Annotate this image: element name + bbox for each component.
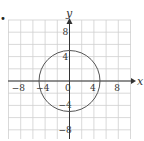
x-axis-arrow-icon (131, 78, 136, 84)
y-tick-label: −8 (59, 125, 73, 135)
x-tick-label: −8 (12, 83, 26, 93)
x-tick-label: 8 (114, 83, 120, 93)
y-tick-label: 8 (63, 27, 69, 37)
coordinate-plane: x y −8−404884−4−8 (0, 0, 144, 141)
y-axis-label: y (65, 7, 73, 20)
y-tick-label: 4 (63, 52, 69, 62)
x-tick-label: 0 (65, 83, 71, 93)
x-tick-label: 4 (90, 83, 96, 93)
y-tick-label: −4 (59, 100, 73, 110)
x-axis-label: x (137, 75, 144, 88)
x-tick-label: −4 (36, 83, 50, 93)
